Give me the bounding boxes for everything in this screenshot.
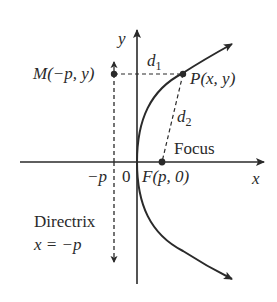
distance-d1-label: d1 xyxy=(147,52,162,72)
point-P xyxy=(180,71,186,77)
point-F xyxy=(159,159,166,166)
neg-p-tick-label: −p xyxy=(87,168,107,185)
point-P-name: P xyxy=(190,69,200,88)
origin-label: 0 xyxy=(122,168,131,185)
parabola-diagram: y x 0 −p M(−p, y) P(x, y) F(p, 0) d1 d2 … xyxy=(0,0,277,302)
y-axis-label: y xyxy=(118,30,126,47)
point-F-label: F(p, 0) xyxy=(142,168,189,185)
directrix-equation: x = −p xyxy=(34,236,82,253)
x-axis-label: x xyxy=(252,170,260,187)
directrix-eq-rest: = −p xyxy=(42,235,82,254)
directrix-annotation: Directrix xyxy=(34,213,95,230)
directrix-eq-var: x xyxy=(34,235,42,254)
point-M-coords: (−p, y) xyxy=(47,64,94,83)
point-M-name: M xyxy=(33,64,47,83)
diagram-canvas xyxy=(0,0,277,302)
d1-subscript: 1 xyxy=(156,59,162,73)
point-P-label: P(x, y) xyxy=(190,70,235,87)
d2-base: d xyxy=(177,107,186,126)
point-F-name: F xyxy=(142,167,152,186)
point-P-coords: (x, y) xyxy=(200,69,235,88)
point-M-label: M(−p, y) xyxy=(33,65,95,82)
d2-subscript: 2 xyxy=(186,115,192,129)
d1-base: d xyxy=(147,51,156,70)
point-M xyxy=(111,71,117,77)
distance-d2-label: d2 xyxy=(177,108,192,128)
point-F-coords: (p, 0) xyxy=(152,167,189,186)
focus-annotation: Focus xyxy=(174,140,215,157)
